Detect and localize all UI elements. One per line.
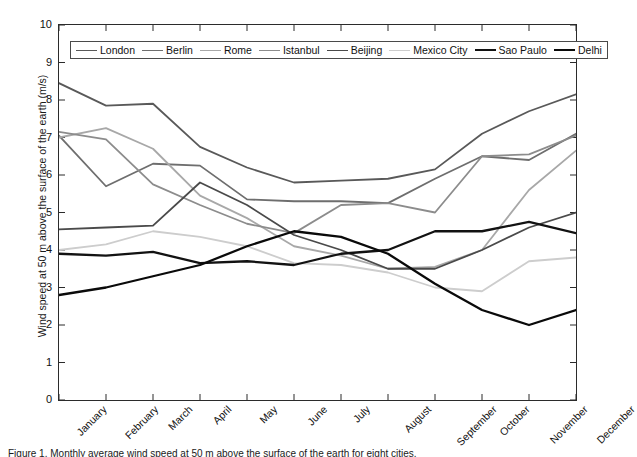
y-tick-label: 8 [6, 94, 52, 105]
legend-line-swatch [76, 50, 97, 51]
y-tick-label: 0 [6, 394, 52, 405]
legend-item[interactable]: Rome [200, 45, 252, 56]
x-tick-label: February [122, 403, 160, 441]
x-tick-label: December [594, 403, 637, 446]
legend-line-swatch [259, 50, 280, 51]
x-tick-label: October [497, 403, 532, 438]
series-line [59, 132, 576, 233]
legend-item[interactable]: Delhi [554, 45, 602, 56]
y-tick-label: 5 [6, 207, 52, 218]
legend-item[interactable]: Beijing [327, 45, 383, 56]
legend-line-swatch [554, 49, 575, 51]
y-tick-label: 1 [6, 357, 52, 368]
x-tick-label: April [210, 403, 233, 426]
x-tick-label: September [454, 403, 499, 448]
y-tick-label: 2 [6, 319, 52, 330]
y-tick-label: 4 [6, 244, 52, 255]
series-line [59, 231, 576, 291]
line-chart-canvas [59, 25, 576, 400]
legend-item[interactable]: Sao Paulo [475, 45, 547, 56]
y-tick-label: 6 [6, 169, 52, 180]
legend-label: Sao Paulo [499, 45, 547, 56]
figure-caption: Figure 1. Monthly average wind speed at … [8, 447, 593, 457]
y-tick-label: 10 [6, 19, 52, 30]
x-tick-label: November [547, 403, 590, 446]
legend-line-swatch [475, 49, 496, 51]
x-tick-label: January [74, 403, 109, 438]
y-tick-label: 7 [6, 132, 52, 143]
plot-area [58, 24, 577, 401]
legend-line-swatch [389, 50, 410, 51]
legend-item[interactable]: London [76, 45, 135, 56]
legend-line-swatch [200, 50, 221, 51]
x-tick-label: March [166, 403, 195, 432]
series-line [59, 128, 576, 269]
legend-line-swatch [142, 50, 163, 51]
legend-line-swatch [327, 50, 348, 51]
x-tick-label: July [350, 403, 372, 425]
series-line [59, 231, 576, 325]
y-tick-label: 9 [6, 57, 52, 68]
legend-label: Beijing [351, 45, 383, 56]
legend-item[interactable]: Mexico City [389, 45, 467, 56]
legend-item[interactable]: Istanbul [259, 45, 320, 56]
legend-label: Delhi [578, 45, 602, 56]
legend-item[interactable]: Berlin [142, 45, 193, 56]
x-tick-label: May [257, 403, 280, 426]
legend-label: Rome [224, 45, 252, 56]
x-tick-label: August [402, 403, 434, 435]
y-tick-label: 3 [6, 282, 52, 293]
series-line [59, 183, 576, 269]
chart-legend: LondonBerlinRomeIstanbulBeijingMexico Ci… [70, 41, 608, 59]
x-tick-label: June [305, 403, 330, 428]
legend-label: London [100, 45, 135, 56]
y-axis-tick-labels: 012345678910 [0, 24, 52, 401]
legend-label: Berlin [166, 45, 193, 56]
legend-label: Istanbul [283, 45, 320, 56]
legend-label: Mexico City [413, 45, 467, 56]
